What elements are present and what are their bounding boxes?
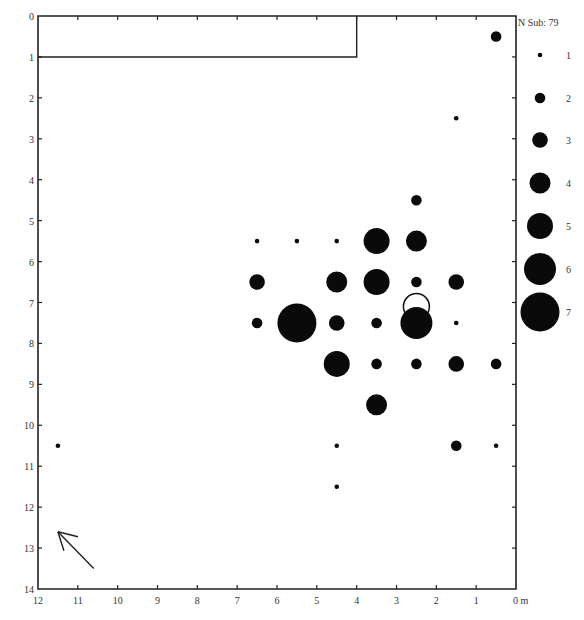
data-point — [448, 274, 464, 290]
x-tick-label: 7 — [235, 595, 240, 606]
x-tick-label: 1 — [474, 595, 479, 606]
y-tick-label: 2 — [29, 93, 34, 104]
plot-axes — [38, 16, 516, 589]
legend-marker — [527, 213, 553, 239]
data-point — [364, 269, 390, 295]
data-point — [411, 277, 422, 288]
x-tick-label: 0 m — [513, 595, 529, 606]
y-tick-label: 11 — [24, 461, 34, 472]
y-tick-label: 13 — [24, 543, 34, 554]
data-point — [334, 443, 339, 448]
legend-marker — [538, 53, 543, 58]
y-axis-ticks: 01234567891011121314 — [24, 11, 516, 595]
y-tick-label: 12 — [24, 502, 34, 513]
legend-label: 3 — [566, 135, 571, 146]
distribution-plot: 1211109876543210 m 01234567891011121314 … — [0, 0, 584, 620]
legend-marker — [535, 93, 546, 104]
legend-marker — [530, 173, 551, 194]
legend-label: 4 — [566, 178, 571, 189]
y-tick-label: 8 — [29, 338, 34, 349]
data-point — [406, 231, 427, 252]
legend-label: 5 — [566, 221, 571, 232]
data-point — [411, 359, 422, 370]
plot-frame — [38, 16, 516, 589]
x-tick-label: 9 — [155, 595, 160, 606]
x-axis-ticks: 1211109876543210 m — [33, 16, 529, 606]
north-arrow-icon — [58, 532, 94, 569]
legend-marker — [521, 293, 560, 332]
data-point — [400, 307, 432, 339]
x-tick-label: 2 — [434, 595, 439, 606]
size-legend: N Sub: 79 1234567 — [518, 17, 571, 332]
x-tick-label: 8 — [195, 595, 200, 606]
data-point — [56, 443, 61, 448]
y-tick-label: 5 — [29, 216, 34, 227]
legend-marker — [524, 253, 556, 285]
legend-label: 1 — [566, 50, 571, 61]
y-tick-label: 6 — [29, 257, 34, 268]
data-point — [255, 239, 260, 244]
legend-label: 7 — [566, 307, 571, 318]
y-tick-label: 14 — [24, 584, 34, 595]
data-point — [454, 116, 459, 121]
structure-outline — [38, 16, 357, 57]
data-point — [491, 359, 502, 370]
data-point — [252, 318, 263, 329]
data-point — [364, 228, 390, 254]
y-tick-label: 9 — [29, 379, 34, 390]
y-tick-label: 3 — [29, 134, 34, 145]
data-point — [329, 315, 345, 331]
x-tick-label: 4 — [354, 595, 359, 606]
y-tick-label: 1 — [29, 52, 34, 63]
y-tick-label: 7 — [29, 298, 34, 309]
x-tick-label: 11 — [73, 595, 83, 606]
data-point — [326, 272, 347, 293]
data-point — [454, 321, 459, 326]
legend-label: 2 — [566, 93, 571, 104]
data-point — [277, 303, 316, 342]
x-tick-label: 12 — [33, 595, 43, 606]
data-point — [371, 318, 382, 329]
data-point — [295, 239, 300, 244]
data-point — [249, 274, 265, 290]
data-point — [451, 440, 462, 451]
x-tick-label: 3 — [394, 595, 399, 606]
data-point — [334, 239, 339, 244]
data-point — [371, 359, 382, 370]
data-point — [366, 394, 387, 415]
legend-marker — [532, 132, 548, 148]
data-points — [56, 31, 502, 489]
data-point — [334, 484, 339, 489]
y-tick-label: 10 — [24, 420, 34, 431]
legend-title: N Sub: 79 — [518, 17, 559, 28]
x-tick-label: 6 — [275, 595, 280, 606]
data-point — [411, 195, 422, 206]
data-point — [494, 443, 499, 448]
x-tick-label: 5 — [314, 595, 319, 606]
data-point — [324, 351, 350, 377]
legend-label: 6 — [566, 264, 571, 275]
data-point — [491, 31, 502, 42]
x-tick-label: 10 — [113, 595, 123, 606]
y-tick-label: 0 — [29, 11, 34, 22]
y-tick-label: 4 — [29, 175, 34, 186]
data-point — [448, 356, 464, 372]
